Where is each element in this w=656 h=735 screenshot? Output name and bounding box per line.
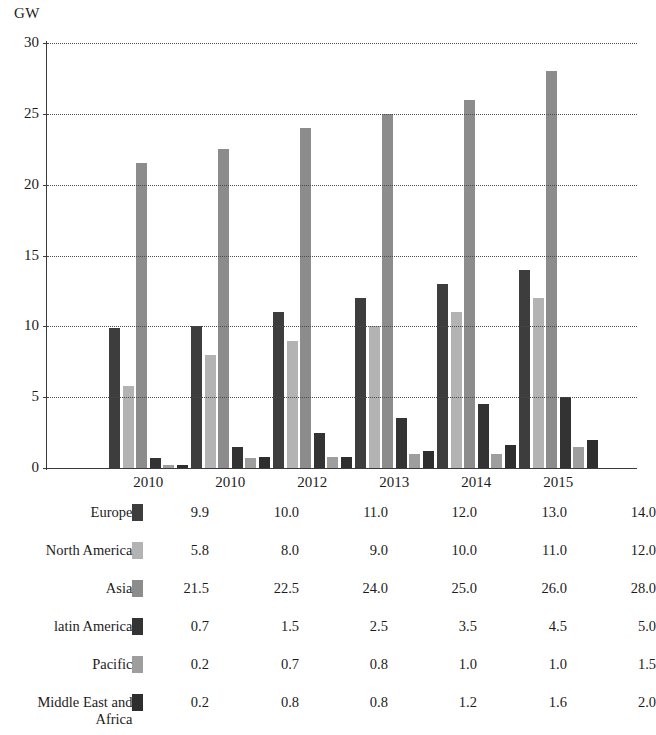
table-cell-value: 24.0 — [299, 580, 388, 597]
table-row-label: North America — [0, 542, 132, 559]
legend-color-swatch — [132, 656, 143, 673]
table-cell-value: 28.0 — [567, 580, 656, 597]
bar — [546, 71, 557, 468]
table-cell-value: 0.8 — [299, 656, 388, 673]
bar — [355, 298, 366, 468]
bar — [245, 458, 256, 468]
table-row-label: Europe — [0, 504, 132, 521]
bar — [205, 355, 216, 468]
x-axis-tick-label: 2010 — [118, 474, 178, 491]
table-cell-value: 14.0 — [567, 504, 656, 521]
table-cell-value: 1.5 — [567, 656, 656, 673]
bar — [533, 298, 544, 468]
table-cell-value: 22.5 — [209, 580, 299, 597]
bar — [491, 454, 502, 468]
bar — [464, 100, 475, 468]
x-axis-tick-label: 2012 — [282, 474, 342, 491]
bar — [409, 454, 420, 468]
y-axis-tick-label: 20 — [0, 177, 39, 192]
y-axis-tick-label: 15 — [0, 248, 39, 263]
table-cell-value: 2.5 — [299, 618, 388, 635]
table-cell-value: 9.9 — [151, 504, 209, 521]
table-row-spacer — [0, 597, 656, 618]
legend-swatch-cell — [132, 656, 151, 673]
y-axis-tick — [43, 43, 47, 44]
y-axis-tick-label: 10 — [0, 318, 39, 333]
table-cell-value: 9.0 — [299, 542, 388, 559]
gridline — [47, 326, 637, 327]
y-axis-unit-label: GW — [14, 5, 40, 22]
table-row-label: latin America — [0, 618, 132, 635]
table-row-label: Asia — [0, 580, 132, 597]
bar — [136, 163, 147, 468]
bar — [123, 386, 134, 468]
y-axis-tick — [43, 468, 47, 469]
table-cell-value: 12.0 — [567, 542, 656, 559]
gridline — [47, 256, 637, 257]
table-cell-value: 11.0 — [299, 504, 388, 521]
plot-inner — [47, 43, 637, 468]
x-axis-tick-label: 2013 — [364, 474, 424, 491]
table-row-spacer — [0, 559, 656, 580]
chart-plot-region: GW 051015202530 201020102012201320142015 — [0, 0, 656, 500]
table-cell-value: 25.0 — [388, 580, 477, 597]
table-cell-value: 12.0 — [388, 504, 477, 521]
bar — [505, 445, 516, 468]
table-cell-value: 1.2 — [388, 694, 477, 728]
legend-data-table-region: Europe9.910.011.012.013.014.0North Ameri… — [0, 500, 656, 735]
table-cell-value: 10.0 — [209, 504, 299, 521]
legend-color-swatch — [132, 694, 143, 711]
table-cell-value: 4.5 — [477, 618, 567, 635]
y-axis-tick-label: 0 — [0, 460, 39, 475]
legend-swatch-cell — [132, 580, 151, 597]
y-axis-tick — [43, 114, 47, 115]
table-row: latin America0.71.52.53.54.55.0 — [0, 618, 656, 635]
bar — [478, 404, 489, 468]
gridline — [47, 185, 637, 186]
bar — [150, 458, 161, 468]
y-axis-tick-label: 5 — [0, 389, 39, 404]
table-cell-value: 5.8 — [151, 542, 209, 559]
bar — [177, 465, 188, 468]
bar — [273, 312, 284, 468]
bar — [232, 447, 243, 468]
gridline — [47, 114, 637, 115]
table-cell-value: 3.5 — [388, 618, 477, 635]
table-row: Europe9.910.011.012.013.014.0 — [0, 504, 656, 521]
table-cell-value: 0.2 — [151, 694, 209, 728]
legend-swatch-cell — [132, 618, 151, 635]
gridline — [47, 43, 637, 44]
table-cell-value: 1.0 — [388, 656, 477, 673]
legend-color-swatch — [132, 618, 143, 635]
bar — [573, 447, 584, 468]
bar — [437, 284, 448, 468]
legend-swatch-cell — [132, 694, 151, 728]
table-row-label: Pacific — [0, 656, 132, 673]
bar — [300, 128, 311, 468]
table-row: Asia21.522.524.025.026.028.0 — [0, 580, 656, 597]
bar — [341, 457, 352, 468]
y-axis-tick-label: 30 — [0, 35, 39, 50]
table-row-spacer — [0, 673, 656, 694]
bar — [451, 312, 462, 468]
y-axis-tick-label: 25 — [0, 106, 39, 121]
table-cell-value: 5.0 — [567, 618, 656, 635]
table-cell-value: 26.0 — [477, 580, 567, 597]
bar — [396, 418, 407, 468]
bar — [287, 341, 298, 469]
table-row-spacer — [0, 521, 656, 542]
table-cell-value: 13.0 — [477, 504, 567, 521]
table-row: Middle East and Africa0.20.80.81.21.62.0 — [0, 694, 656, 728]
legend-swatch-cell — [132, 542, 151, 559]
x-axis-tick-label: 2010 — [200, 474, 260, 491]
table-cell-value: 11.0 — [477, 542, 567, 559]
legend-color-swatch — [132, 542, 143, 559]
table-row-spacer — [0, 635, 656, 656]
bar — [314, 433, 325, 468]
legend-data-table: Europe9.910.011.012.013.014.0North Ameri… — [0, 504, 656, 728]
table-cell-value: 1.0 — [477, 656, 567, 673]
table-cell-value: 1.5 — [209, 618, 299, 635]
x-axis-line — [46, 468, 637, 469]
bar — [423, 451, 434, 468]
bar — [259, 457, 270, 468]
